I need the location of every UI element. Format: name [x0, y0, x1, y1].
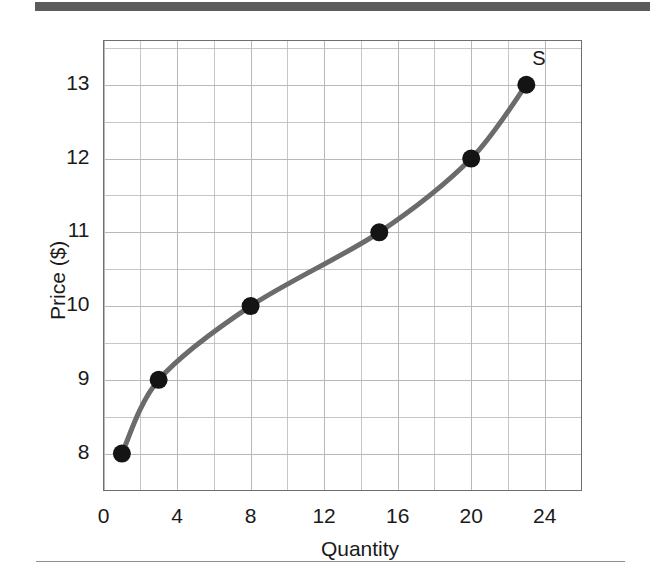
chart-plot-area	[0, 0, 650, 585]
y-axis-tick-label: 9	[46, 366, 90, 390]
x-axis-tick-label: 4	[147, 504, 207, 528]
bottom-divider-rule	[36, 561, 625, 562]
x-axis-tick-label: 8	[221, 504, 281, 528]
x-axis-tick-label: 16	[368, 504, 428, 528]
y-axis-tick-label: 8	[46, 440, 90, 464]
x-axis-tick-label: 12	[294, 504, 354, 528]
data-point-marker	[113, 445, 131, 463]
x-axis-tick-label: 24	[515, 504, 575, 528]
data-point-marker	[517, 76, 535, 94]
y-axis-tick-label: 12	[46, 145, 90, 169]
x-axis-tick-label: 20	[441, 504, 501, 528]
data-point-marker	[150, 371, 168, 389]
y-axis-tick-label: 11	[46, 218, 90, 242]
x-axis-title: Quantity	[35, 537, 650, 561]
y-axis-tick-label: 13	[46, 71, 90, 95]
y-axis-title: Price ($)	[46, 241, 70, 320]
supply-curve-figure: 8910111213 04812162024 Price ($) Quantit…	[0, 0, 650, 585]
data-point-marker	[462, 150, 480, 168]
x-axis-tick-label: 0	[74, 504, 134, 528]
data-point-marker	[242, 297, 260, 315]
data-point-marker	[370, 223, 388, 241]
series-annotation-label: S	[532, 47, 545, 70]
